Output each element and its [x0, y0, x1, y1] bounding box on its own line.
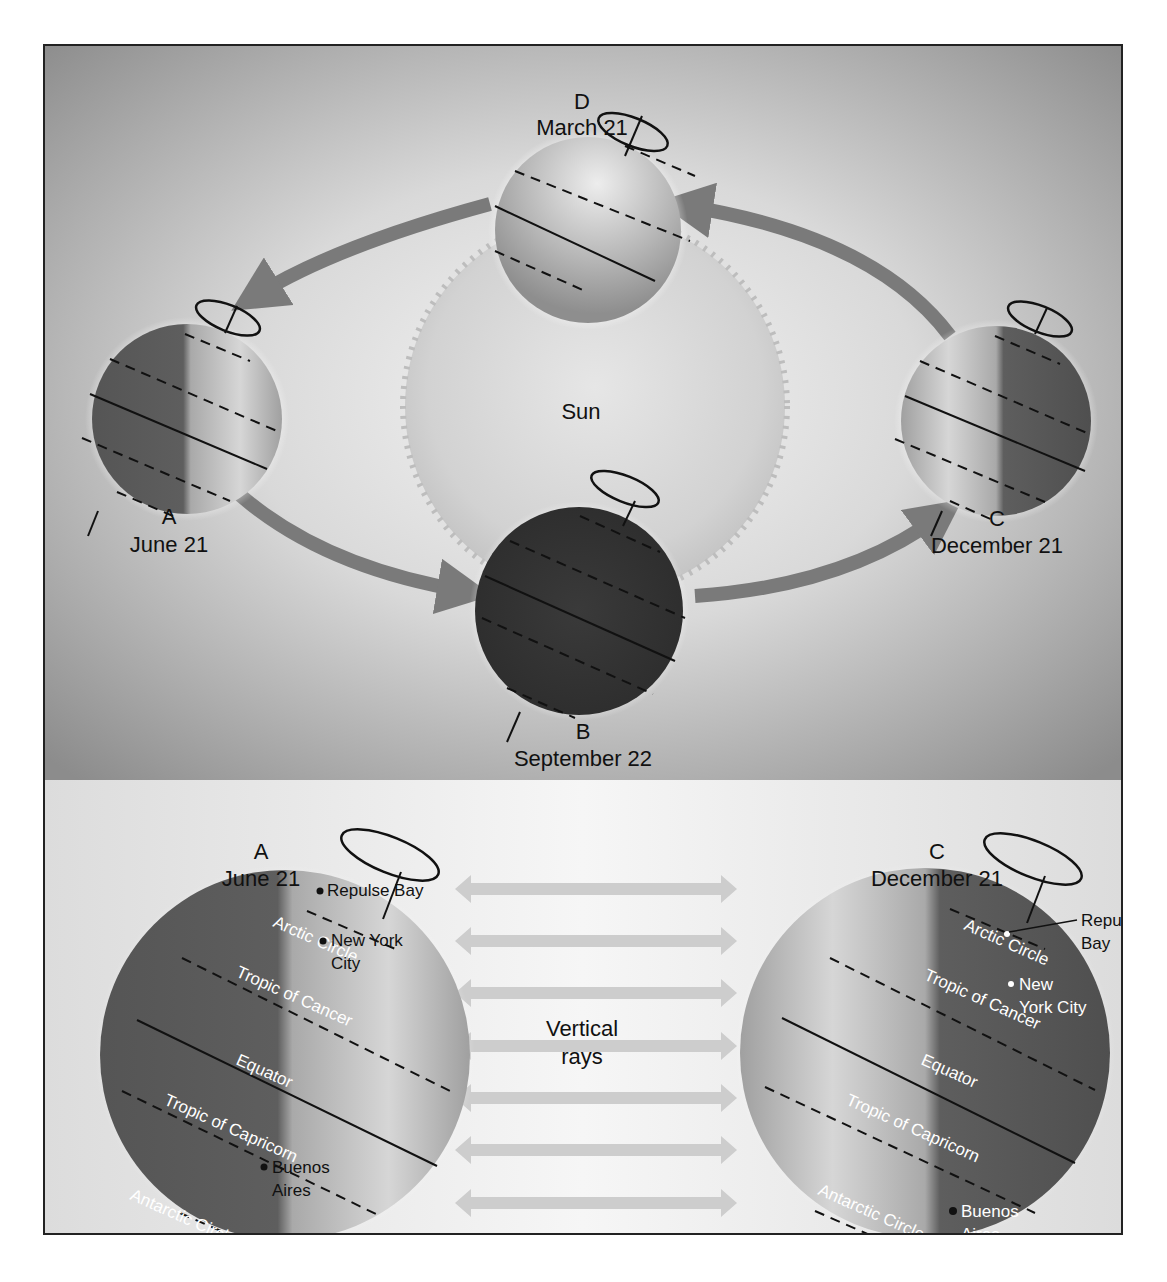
- globe-c-detail-date: December 21: [871, 866, 1003, 891]
- city-dot-new-york: [320, 938, 327, 945]
- globe-d-letter: D: [574, 89, 590, 114]
- city-new-york-line2: City: [331, 954, 361, 973]
- city-repulse-bay-line1: Repulse: [1081, 911, 1121, 930]
- globe-d-date: March 21: [536, 115, 628, 140]
- city-buenos-aires-line2: Aires: [961, 1225, 1000, 1233]
- city-new-york-line2: York City: [1019, 998, 1087, 1017]
- globe-a-letter: A: [162, 504, 177, 529]
- city-dot-repulse-bay: [317, 888, 324, 895]
- city-repulse-bay: Repulse Bay: [327, 881, 424, 900]
- globe-b-letter: B: [576, 719, 591, 744]
- city-dot-new-york: [1008, 981, 1014, 987]
- globe-b-date: September 22: [514, 746, 652, 771]
- city-buenos-aires-line1: Buenos: [961, 1202, 1019, 1221]
- seasons-diagram: Sun D March 21: [43, 44, 1123, 1235]
- globe-a-detail-date: June 21: [222, 866, 300, 891]
- globe-c-letter: C: [989, 506, 1005, 531]
- bottom-panel-solstices: Vertical rays A June 21 Arctic Circle Tr…: [45, 780, 1121, 1233]
- globe-c-date: December 21: [931, 533, 1063, 558]
- top-panel-orbit: Sun D March 21: [45, 46, 1121, 780]
- globe-a-date: June 21: [130, 532, 208, 557]
- city-buenos-aires-line2: Aires: [272, 1181, 311, 1200]
- vertical-rays-label: Vertical: [546, 1016, 618, 1041]
- city-dot-buenos-aires: [261, 1164, 268, 1171]
- city-dot-buenos-aires: [949, 1207, 957, 1215]
- city-new-york-line1: New: [1019, 975, 1054, 994]
- globe-a-detail-letter: A: [254, 839, 269, 864]
- city-new-york-line1: New York: [331, 931, 403, 950]
- city-repulse-bay-line2: Bay: [1081, 934, 1111, 953]
- vertical-rays-label-2: rays: [561, 1044, 603, 1069]
- city-buenos-aires-line1: Buenos: [272, 1158, 330, 1177]
- globe-c-detail-letter: C: [929, 839, 945, 864]
- sun-label: Sun: [561, 399, 600, 424]
